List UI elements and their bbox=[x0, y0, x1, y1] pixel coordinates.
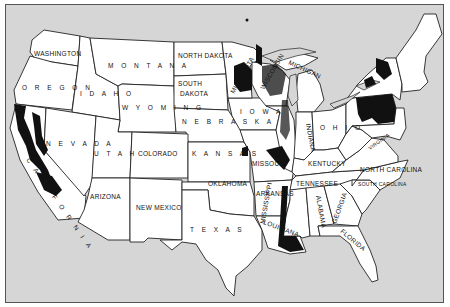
label-north-carolina: NORTH CAROLINA bbox=[360, 166, 423, 173]
label-utah: U T A H bbox=[94, 150, 137, 157]
label-arkansas: ARKANSAS bbox=[256, 190, 294, 197]
label-new-mexico: NEW MEXICO bbox=[136, 204, 182, 211]
label-wyoming: W Y O M I N G bbox=[122, 104, 204, 111]
label-iowa: I O W A bbox=[240, 108, 283, 115]
lake-michigan bbox=[288, 74, 298, 106]
label-ohio: O H I O bbox=[320, 124, 363, 131]
label-washington: WASHINGTON bbox=[34, 50, 81, 57]
label-montana: M O N T A N A bbox=[108, 62, 189, 69]
state-new-york bbox=[346, 58, 402, 100]
state-new-england bbox=[396, 14, 442, 92]
label-south-carolina: SOUTH CAROLINA bbox=[358, 181, 407, 187]
label-nevada: N E V A D A bbox=[46, 140, 114, 147]
label-oklahoma: OKLAHOMA bbox=[208, 180, 248, 187]
state-north-dakota bbox=[174, 42, 226, 76]
state-kansas bbox=[188, 142, 250, 182]
label-missouri: MISSOURI bbox=[252, 160, 287, 167]
label-arizona: ARIZONA bbox=[90, 193, 121, 200]
label-tennessee: TENNESSEE bbox=[296, 180, 338, 187]
label-colorado: COLORADO bbox=[138, 150, 178, 157]
label-nebraska: N E B R A S K A bbox=[182, 118, 274, 125]
label-kentucky: KENTUCKY bbox=[308, 160, 346, 167]
state-oregon bbox=[14, 56, 78, 110]
label-idaho: I D A H O bbox=[80, 90, 134, 97]
us-map: WASHINGTON O R E G O N I D A H O M O N T… bbox=[0, 0, 450, 307]
label-south-dakota-1: SOUTH bbox=[178, 80, 202, 87]
label-north-dakota: NORTH DAKOTA bbox=[178, 52, 233, 59]
label-south-dakota-2: DAKOTA bbox=[180, 90, 208, 97]
label-texas: T E X A S bbox=[190, 226, 245, 233]
label-kansas: K A N S A S bbox=[192, 150, 259, 157]
